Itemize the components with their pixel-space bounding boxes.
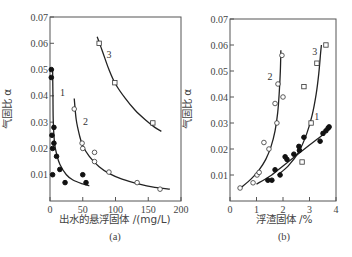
x-axis-title-a: 出水的悬浮固体 /(mg/L) [59, 213, 170, 225]
data-point-series-2 [275, 121, 280, 126]
data-point-series-1 [80, 172, 85, 177]
data-point-series-2 [262, 140, 267, 145]
data-point-series-1 [54, 154, 59, 159]
data-point-series-2 [276, 82, 281, 87]
data-point-series-2 [280, 53, 285, 58]
y-axis-title-a: 气固比 α [1, 89, 13, 129]
data-point-series-2 [257, 170, 262, 175]
y-axis-title-b: 气固比 α [181, 89, 193, 129]
data-point-series-2 [251, 181, 256, 186]
panel-a: 0.010.020.030.040.050.060.07 05010015020… [1, 12, 189, 244]
y-tick-label: 0.07 [31, 12, 49, 23]
y-tick-label: 0.01 [211, 170, 229, 181]
y-tick-label: 0.02 [31, 143, 49, 154]
y-tick-label: 0.07 [211, 14, 229, 25]
x-tick-label: 4 [334, 204, 339, 215]
curve-label-1: 1 [314, 111, 319, 122]
figure: 0.010.020.030.040.050.060.07 05010015020… [0, 0, 352, 257]
data-point-series-1 [285, 157, 290, 162]
data-point-series-3 [151, 121, 155, 125]
y-tick-label: 0.05 [211, 66, 229, 77]
data-point-series-1 [278, 173, 283, 178]
data-point-series-1 [327, 125, 332, 130]
data-point-series-2 [281, 95, 286, 100]
data-point-series-1 [270, 178, 275, 183]
plot-frame-a [50, 17, 181, 201]
data-point-series-1 [52, 141, 57, 146]
panel-label-b: (b) [278, 231, 291, 243]
data-point-series-2 [238, 186, 243, 191]
data-point-series-3 [300, 160, 304, 164]
y-tick-label: 0.05 [31, 64, 49, 75]
y-tick-label: 0.02 [211, 144, 229, 155]
data-point-series-3 [315, 61, 319, 65]
curve-label-3: 3 [312, 46, 317, 57]
curve-label-1: 1 [60, 87, 65, 98]
points-a [49, 41, 162, 191]
data-point-series-3 [324, 43, 328, 47]
data-point-series-2 [92, 159, 97, 164]
x-tick-label: 0 [228, 204, 233, 215]
y-tick-label: 0.03 [31, 117, 49, 128]
data-point-series-3 [309, 121, 313, 125]
data-point-series-1 [292, 152, 297, 157]
data-point-series-1 [58, 167, 63, 172]
data-point-series-1 [52, 125, 57, 130]
data-point-series-2 [158, 187, 163, 192]
x-tick-label: 0 [48, 204, 53, 215]
x-axis-title-b: 浮渣固体 /% [256, 213, 313, 225]
curve-labels-a: 123 [60, 49, 111, 127]
y-tick-label: 0.04 [31, 90, 49, 101]
panel-b: 0.010.020.030.040.050.060.07 01234 123 浮… [181, 14, 339, 244]
y-tick-label: 0.01 [31, 169, 49, 180]
data-point-series-1 [318, 139, 323, 144]
data-point-series-2 [92, 150, 97, 155]
curve-label-2: 2 [83, 116, 88, 127]
data-point-series-1 [63, 180, 68, 185]
data-point-series-1 [273, 168, 278, 173]
data-point-series-3 [113, 81, 117, 85]
data-point-series-1 [50, 172, 55, 177]
data-point-series-3 [302, 84, 306, 88]
data-point-series-3 [97, 41, 101, 45]
y-tick-label: 0.04 [211, 92, 229, 103]
data-point-series-1 [50, 146, 55, 151]
x-tick-label: 200 [174, 204, 189, 215]
panel-label-a: (a) [109, 231, 121, 243]
y-tick-label: 0.03 [211, 118, 229, 129]
data-point-series-2 [80, 141, 85, 146]
plot-frame-b [230, 19, 336, 201]
data-point-series-1 [302, 135, 307, 140]
data-point-series-2 [107, 170, 112, 175]
y-tick-label: 0.06 [31, 38, 49, 49]
data-point-series-1 [50, 133, 55, 138]
data-point-series-1 [49, 75, 54, 80]
data-point-series-1 [49, 67, 54, 72]
y-tick-label: 0.06 [211, 40, 229, 51]
data-point-series-1 [84, 180, 89, 185]
data-point-series-2 [72, 107, 77, 112]
data-point-series-2 [267, 147, 272, 152]
data-point-series-2 [135, 180, 140, 185]
curve-label-3: 3 [107, 49, 112, 60]
data-point-series-2 [273, 101, 278, 106]
data-point-series-2 [80, 146, 85, 151]
data-point-series-1 [297, 148, 302, 153]
curve-label-2: 2 [268, 71, 273, 82]
curve-2 [74, 98, 170, 189]
